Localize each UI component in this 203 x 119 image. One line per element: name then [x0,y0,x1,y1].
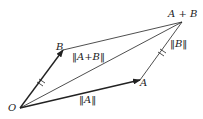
label-O: O [8,103,16,113]
tick-marks-OB [37,79,45,86]
label-A-plus-B: A + B [168,9,197,19]
label-norm-B: ‖B‖ [170,39,187,49]
label-norm-A: ‖A‖ [79,95,96,105]
tick-marks-A-sum [158,49,166,56]
diagonal-O-to-sum [20,22,182,108]
label-B: B [56,42,63,52]
label-norm-A-plus-B: ‖A+B‖ [72,52,105,62]
segment-B-to-sum [63,22,182,50]
parallelogram-diagram: O A B A + B ‖A‖ ‖B‖ ‖A+B‖ [0,0,203,119]
label-A: A [140,78,147,88]
